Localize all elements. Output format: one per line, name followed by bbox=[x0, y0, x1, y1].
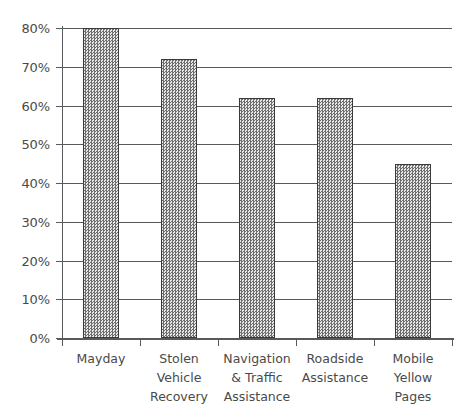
y-axis-tick-labels: 0%10%20%30%40%50%60%70%80% bbox=[0, 0, 50, 418]
x-axis-tick-labels: MaydayStolen Vehicle RecoveryNavigation … bbox=[57, 349, 454, 415]
y-axis-tick-label: 80% bbox=[21, 21, 50, 36]
gridline bbox=[62, 67, 452, 68]
y-axis-tick-label: 40% bbox=[21, 176, 50, 191]
bar bbox=[161, 59, 197, 338]
bar-chart: 0%10%20%30%40%50%60%70%80% MaydayStolen … bbox=[0, 0, 476, 418]
x-axis-tick-mark bbox=[374, 339, 375, 346]
y-axis-tick-label: 10% bbox=[21, 292, 50, 307]
x-axis-tick-mark bbox=[140, 339, 141, 346]
y-axis-tick-label: 20% bbox=[21, 253, 50, 268]
x-axis-category-label: Navigation & Traffic Assistance bbox=[218, 349, 296, 406]
y-axis-line bbox=[62, 26, 63, 340]
bar bbox=[317, 98, 353, 338]
bar bbox=[395, 164, 431, 338]
x-axis-line bbox=[57, 338, 454, 340]
y-axis-tick-label: 70% bbox=[21, 59, 50, 74]
x-axis-category-label: Mobile Yellow Pages bbox=[374, 349, 452, 406]
x-axis-tick-mark bbox=[452, 339, 453, 346]
y-axis-tick-label: 30% bbox=[21, 214, 50, 229]
x-axis-tick-mark bbox=[218, 339, 219, 346]
bar bbox=[239, 98, 275, 338]
y-axis-tick-label: 50% bbox=[21, 137, 50, 152]
x-axis-category-label: Stolen Vehicle Recovery bbox=[140, 349, 218, 406]
plot-area bbox=[62, 28, 452, 338]
bar bbox=[83, 28, 119, 338]
x-axis-category-label: Mayday bbox=[62, 349, 140, 368]
x-axis-tick-mark bbox=[296, 339, 297, 346]
y-axis-tick-label: 0% bbox=[30, 331, 50, 346]
x-axis-tick-mark bbox=[62, 339, 63, 346]
y-axis-tick-label: 60% bbox=[21, 98, 50, 113]
gridline bbox=[62, 28, 452, 29]
x-axis-category-label: Roadside Assistance bbox=[296, 349, 374, 387]
